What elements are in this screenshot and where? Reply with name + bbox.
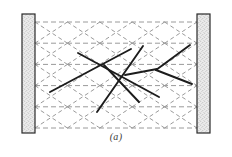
grid-diagonal-up-1-0 [35, 43, 67, 64]
right-column [197, 14, 210, 133]
grid-diagonal-down-0-1 [67, 22, 99, 43]
grid-diagonal-up-4-1 [67, 107, 99, 128]
figure-caption: (a) [0, 131, 232, 142]
grid-diagonal-up-3-3 [132, 86, 164, 107]
strut-layer [50, 45, 192, 112]
figure-container: (a) [0, 0, 232, 157]
strut-2 [78, 53, 159, 97]
strut-6 [156, 70, 192, 84]
left-column [22, 14, 35, 133]
grid-diagonal-up-3-4 [165, 86, 197, 107]
grid-diagonal-down-3-3 [132, 86, 164, 107]
grid-diagonal-up-4-0 [35, 107, 67, 128]
grid-diagonal-down-0-0 [35, 22, 67, 43]
grid-diagonal-down-1-0 [35, 43, 67, 64]
grid-diagonal-up-2-0 [35, 64, 67, 85]
grid-diagonal-down-4-1 [67, 107, 99, 128]
grid-diagonal-up-0-1 [67, 22, 99, 43]
dashed-grid-layer [35, 22, 197, 128]
grid-diagonal-down-4-0 [35, 107, 67, 128]
grid-diagonal-up-0-0 [35, 22, 67, 43]
grid-diagonal-down-2-0 [35, 64, 67, 85]
grid-diagonal-down-3-4 [165, 86, 197, 107]
